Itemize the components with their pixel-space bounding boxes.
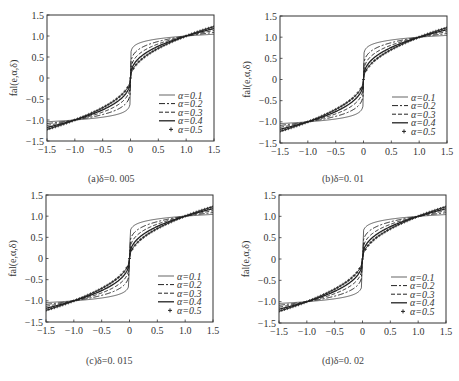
x-tick-label: 0 <box>127 325 132 336</box>
legend: α=0.1α=0.2α=0.3α=0.4α=0.5 <box>158 271 202 316</box>
y-tick-label: −1.0 <box>259 116 277 127</box>
y-tick-label: 0.5 <box>32 52 45 63</box>
x-tick-label: −1.0 <box>66 144 84 155</box>
chart-panel-d: −1.5−1.0−0.500.51.01.51.51.00.50−0.5−1.0… <box>279 195 446 323</box>
x-tick-label: 1.5 <box>440 326 453 337</box>
y-tick-label: −1.0 <box>25 295 43 306</box>
y-tick-label: 0 <box>39 73 44 84</box>
x-tick-label: −1.0 <box>65 325 83 336</box>
plot-area-a: −1.5−1.0−0.500.51.01.51.51.00.50−0.5−1.0… <box>47 15 214 141</box>
x-tick-label: −0.5 <box>327 146 345 157</box>
legend-entry: α=0.5 <box>410 306 435 317</box>
y-tick-label: −1.0 <box>258 296 276 307</box>
x-tick-label: 1.0 <box>413 146 426 157</box>
y-tick-label: 1.5 <box>31 190 44 201</box>
y-tick-label: 0.5 <box>264 232 277 243</box>
x-tick-label: 1.0 <box>180 144 193 155</box>
chart-panel-b: −1.5−1.0−0.500.51.01.51.51.00.50−0.5−1.0… <box>280 16 447 143</box>
x-tick-label: 1.0 <box>179 325 192 336</box>
y-tick-label: 1.5 <box>32 10 45 21</box>
legend: α=0.1α=0.2α=0.3α=0.4α=0.5 <box>391 272 435 317</box>
x-tick-label: 0.5 <box>385 146 398 157</box>
x-tick-label: 1.0 <box>412 326 425 337</box>
caption-c: (c)δ=0. 015 <box>86 355 132 366</box>
y-tick-label: 0 <box>38 253 43 264</box>
x-tick-label: −1.0 <box>298 326 316 337</box>
x-tick-label: −0.5 <box>93 325 111 336</box>
legend: α=0.1α=0.2α=0.3α=0.4α=0.5 <box>159 90 203 135</box>
y-tick-label: 1.5 <box>264 190 277 201</box>
y-tick-label: −1.0 <box>26 115 44 126</box>
x-tick-label: 0 <box>360 326 365 337</box>
x-tick-label: −1.0 <box>299 146 317 157</box>
y-tick-label: 0.5 <box>31 232 44 243</box>
y-tick-label: 1.0 <box>265 32 278 43</box>
x-tick-label: 1.5 <box>207 325 220 336</box>
legend-entry: α=0.5 <box>178 124 203 135</box>
y-tick-label: 0 <box>272 74 277 85</box>
chart-panel-a: −1.5−1.0−0.500.51.01.51.51.00.50−0.5−1.0… <box>47 15 214 141</box>
y-tick-label: 1.5 <box>265 11 278 22</box>
x-tick-label: 0 <box>361 146 366 157</box>
y-axis-label: fal(e,α,δ) <box>7 240 19 277</box>
y-axis-label: fal(e,α,δ) <box>241 61 253 98</box>
y-tick-label: −1.5 <box>259 138 277 149</box>
y-axis-label: fal(e,α,δ) <box>8 60 20 97</box>
x-tick-label: −0.5 <box>326 326 344 337</box>
x-tick-label: 1.5 <box>441 146 454 157</box>
y-tick-label: 1.0 <box>31 211 44 222</box>
y-tick-label: −0.5 <box>258 275 276 286</box>
x-tick-label: −0.5 <box>94 144 112 155</box>
caption-d: (d)δ=0. 02 <box>322 355 364 366</box>
plot-area-d: −1.5−1.0−0.500.51.01.51.51.00.50−0.5−1.0… <box>279 195 446 323</box>
plot-area-c: −1.5−1.0−0.500.51.01.51.51.00.50−0.5−1.0… <box>46 195 213 322</box>
chart-panel-c: −1.5−1.0−0.500.51.01.51.51.00.50−0.5−1.0… <box>46 195 213 322</box>
legend-entry: α=0.5 <box>177 305 202 316</box>
caption-b: (b)δ=0. 01 <box>322 173 364 184</box>
caption-a: (a)δ=0. 005 <box>88 173 134 184</box>
y-tick-label: −0.5 <box>259 95 277 106</box>
x-tick-label: 1.5 <box>208 144 221 155</box>
y-tick-label: −1.5 <box>26 136 44 147</box>
y-tick-label: −0.5 <box>26 94 44 105</box>
y-tick-label: 1.0 <box>264 211 277 222</box>
x-tick-label: 0 <box>128 144 133 155</box>
y-tick-label: −0.5 <box>25 274 43 285</box>
legend-entry: α=0.5 <box>411 126 436 137</box>
y-tick-label: 0 <box>271 254 276 265</box>
x-tick-label: 0.5 <box>384 326 397 337</box>
x-tick-label: 0.5 <box>152 144 165 155</box>
y-tick-label: 1.0 <box>32 31 45 42</box>
plot-area-b: −1.5−1.0−0.500.51.01.51.51.00.50−0.5−1.0… <box>280 16 447 143</box>
y-tick-label: 0.5 <box>265 53 278 64</box>
legend: α=0.1α=0.2α=0.3α=0.4α=0.5 <box>392 92 436 137</box>
y-tick-label: −1.5 <box>258 318 276 329</box>
y-tick-label: −1.5 <box>25 317 43 328</box>
y-axis-label: fal(e,α,δ) <box>240 241 252 278</box>
x-tick-label: 0.5 <box>151 325 164 336</box>
